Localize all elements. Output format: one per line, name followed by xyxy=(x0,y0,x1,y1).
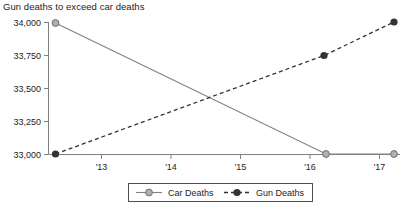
car-deaths-point xyxy=(323,151,330,158)
car-deaths-line xyxy=(56,23,395,154)
chart-legend: Car Deaths Gun Deaths xyxy=(129,184,313,202)
gun-deaths-line xyxy=(56,22,395,154)
x-tick-label-13: '13 xyxy=(96,162,108,172)
y-tick-label-33250: 33,250 xyxy=(13,117,41,127)
car-deaths-point xyxy=(52,20,59,27)
series-gun-deaths xyxy=(52,18,398,157)
y-tick-label-33500: 33,500 xyxy=(13,84,41,94)
x-tick-label-14: '14 xyxy=(165,162,177,172)
legend-gun-deaths-marker-icon xyxy=(233,189,240,196)
y-tick-label-33000: 33,000 xyxy=(13,150,41,160)
x-tick-label-17: '17 xyxy=(374,162,386,172)
y-tick-label-33750: 33,750 xyxy=(13,51,41,61)
legend-label-gun-deaths: Gun Deaths xyxy=(256,188,305,198)
y-axis-ticks xyxy=(44,23,49,155)
legend-car-deaths-marker-icon xyxy=(146,189,153,196)
x-axis-ticks xyxy=(102,155,380,160)
gun-deaths-point xyxy=(52,150,59,157)
chart-plot-area: 33,000 33,250 33,500 33,750 34,000 '13 '… xyxy=(0,0,405,213)
x-tick-label-16: '16 xyxy=(304,162,316,172)
legend-label-car-deaths: Car Deaths xyxy=(168,188,214,198)
gun-deaths-point xyxy=(320,52,327,59)
chart-container: Gun deaths to exceed car deaths 33,000 3… xyxy=(0,0,405,213)
gun-deaths-point xyxy=(390,18,397,25)
x-tick-label-15: '15 xyxy=(235,162,247,172)
y-tick-label-34000: 34,000 xyxy=(13,18,41,28)
car-deaths-point xyxy=(391,151,398,158)
